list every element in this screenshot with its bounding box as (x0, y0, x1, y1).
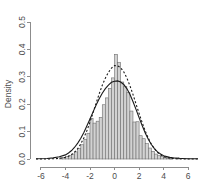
histogram-bar (124, 87, 127, 159)
x-tick-label: 2 (137, 171, 142, 181)
y-tick-label: 0.4 (17, 43, 27, 55)
histogram-bar (145, 144, 148, 159)
y-tick-label: 0.3 (17, 71, 27, 83)
histogram-bar (108, 88, 111, 159)
histogram-bar (127, 92, 130, 159)
x-tick-label: 0 (112, 171, 117, 181)
histogram-bar (96, 121, 99, 159)
histogram-bar (105, 98, 108, 159)
histogram-bar (115, 54, 118, 159)
x-tick-label: -6 (37, 171, 45, 181)
histogram-bar (99, 117, 102, 159)
histogram-bar (118, 62, 121, 159)
y-axis-title: Density (3, 79, 13, 108)
histogram-bar (139, 136, 142, 159)
histogram-bar (164, 157, 167, 159)
x-tick-label: 4 (161, 171, 166, 181)
histogram-bar (87, 133, 90, 159)
y-tick-label: 0.2 (17, 98, 27, 110)
histogram-bar (158, 156, 161, 159)
histogram-density-figure: 0.00.10.20.30.40.5 -6-4-20246 Density (0, 0, 208, 187)
y-tick-label: 0.5 (17, 16, 27, 28)
histogram-bar (142, 139, 145, 159)
histogram-bar (154, 154, 157, 159)
histogram-bar (84, 139, 87, 159)
histogram-bar (78, 149, 81, 159)
x-tick-label: -2 (86, 171, 94, 181)
histogram-bar (93, 123, 96, 159)
histogram-bar (81, 145, 84, 159)
histogram-bar (90, 118, 93, 159)
histogram-bar (148, 148, 151, 159)
histogram-bar (161, 157, 164, 159)
histogram-bar (75, 152, 78, 159)
histogram-bar (151, 151, 154, 159)
histogram-bar (136, 122, 139, 159)
histogram-bar (133, 122, 136, 159)
x-tick-label: -4 (62, 171, 70, 181)
histogram-bar (121, 82, 124, 159)
histogram-bar (111, 78, 114, 159)
histogram-bar (130, 111, 133, 159)
x-tick-label: 6 (186, 171, 191, 181)
y-tick-label: 0.1 (17, 125, 27, 137)
histogram-bar (102, 105, 105, 159)
chart-canvas: 0.00.10.20.30.40.5 -6-4-20246 Density (0, 0, 208, 187)
y-tick-label: 0.0 (17, 153, 27, 165)
